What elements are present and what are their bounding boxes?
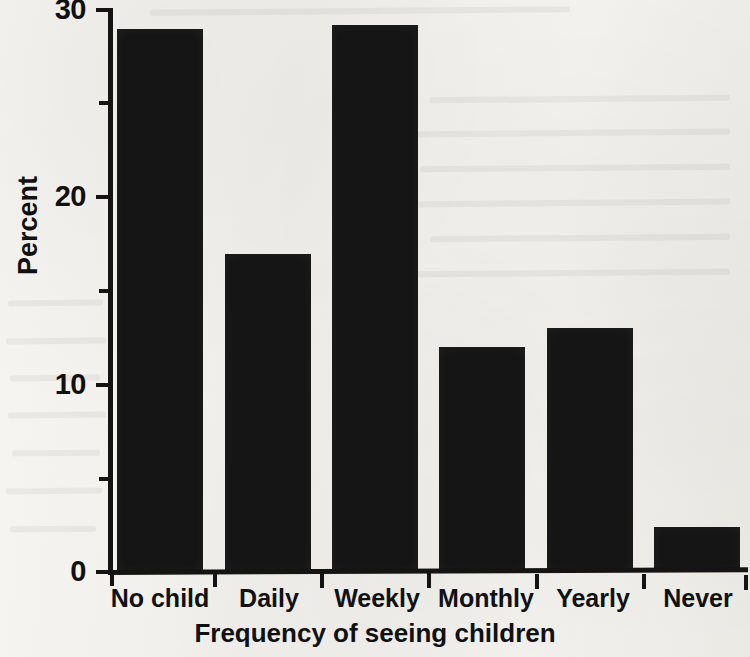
y-tick-15-minor	[99, 289, 113, 293]
x-label-never: Never	[648, 584, 748, 613]
x-label-daily: Daily	[214, 584, 324, 613]
y-tick-5-minor	[99, 477, 113, 481]
chart-page: 30 20 10 0 Percent No child Daily Weekly…	[0, 0, 750, 657]
y-tick-20	[96, 195, 113, 199]
y-tick-label-30: 30	[28, 0, 86, 26]
bar-daily	[225, 254, 311, 572]
x-label-no-child: No child	[92, 584, 228, 613]
plot-area: 30 20 10 0 Percent No child Daily Weekly…	[0, 0, 750, 657]
y-tick-10	[96, 383, 113, 387]
bar-no-child	[117, 29, 203, 572]
x-axis-title: Frequency of seeing children	[0, 618, 750, 649]
bar-never	[654, 527, 740, 572]
x-label-yearly: Yearly	[540, 584, 646, 613]
bar-weekly	[332, 25, 418, 572]
y-tick-30	[96, 8, 113, 12]
bar-monthly	[439, 347, 525, 572]
y-axis-title: Percent	[13, 146, 44, 306]
x-label-monthly: Monthly	[428, 584, 544, 613]
x-label-weekly: Weekly	[322, 584, 432, 613]
y-tick-label-0: 0	[28, 555, 86, 588]
y-tick-label-10: 10	[28, 368, 86, 401]
bar-yearly	[547, 328, 633, 572]
y-tick-25-minor	[99, 101, 113, 105]
